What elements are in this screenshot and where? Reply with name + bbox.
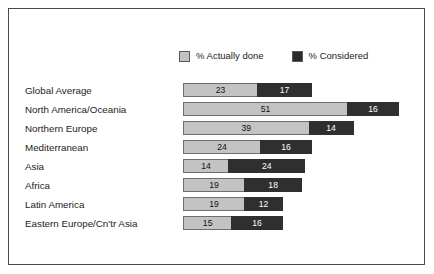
bar-value-label: 19	[209, 181, 219, 190]
bar-segment-consid: 12	[244, 197, 283, 211]
category-label: Eastern Europe/Cn'tr Asia	[25, 214, 137, 233]
category-label: Latin America	[25, 195, 84, 214]
plot-area: % Actually done% Considered Global Avera…	[9, 9, 426, 266]
bar-segment-consid: 18	[244, 178, 302, 192]
bar-row: Global Average2317	[9, 81, 426, 100]
bar-segment-consid: 24	[228, 159, 305, 173]
chart-frame: % Actually done% Considered Global Avera…	[8, 8, 425, 265]
bar-value-label: 16	[252, 219, 262, 228]
legend-swatch-consid-icon	[292, 51, 303, 62]
bar-value-label: 12	[259, 200, 269, 209]
bar-value-label: 14	[326, 124, 336, 133]
bar-row: Eastern Europe/Cn'tr Asia1516	[9, 214, 426, 233]
bar-value-label: 15	[203, 219, 213, 228]
bar-row: Mediterranean2416	[9, 138, 426, 157]
bar-row: Latin America1912	[9, 195, 426, 214]
bar-value-label: 19	[209, 200, 219, 209]
bar-value-label: 24	[262, 162, 272, 171]
category-label: Global Average	[25, 81, 92, 100]
category-label: Africa	[25, 176, 50, 195]
stacked-bar: 1424	[183, 159, 305, 173]
category-label: North America/Oceania	[25, 100, 126, 119]
bar-segment-done: 24	[183, 140, 260, 154]
bar-value-label: 16	[368, 105, 378, 114]
bar-value-label: 23	[216, 86, 226, 95]
bar-segment-done: 23	[183, 83, 257, 97]
bar-segment-consid: 16	[260, 140, 312, 154]
bar-segment-consid: 16	[231, 216, 283, 230]
stacked-bar: 5116	[183, 102, 399, 116]
bar-row: Africa1918	[9, 176, 426, 195]
bar-value-label: 17	[280, 86, 290, 95]
bar-segment-done: 39	[183, 121, 309, 135]
category-label: Mediterranean	[25, 138, 88, 157]
bar-value-label: 24	[217, 143, 227, 152]
legend-swatch-done-icon	[179, 51, 190, 62]
legend-label: % Actually done	[196, 51, 264, 61]
legend-entry[interactable]: % Considered	[292, 51, 369, 62]
stacked-bar: 3914	[183, 121, 354, 135]
stacked-bar: 1516	[183, 216, 283, 230]
legend-label: % Considered	[309, 51, 369, 61]
bar-value-label: 51	[261, 105, 271, 114]
stacked-bar: 1912	[183, 197, 283, 211]
bar-value-label: 39	[242, 124, 252, 133]
bar-segment-done: 51	[183, 102, 347, 116]
bar-value-label: 16	[281, 143, 291, 152]
stacked-bar: 1918	[183, 178, 302, 192]
bar-segment-consid: 14	[309, 121, 354, 135]
bar-row: North America/Oceania5116	[9, 100, 426, 119]
bar-segment-done: 14	[183, 159, 228, 173]
bar-value-label: 18	[268, 181, 278, 190]
legend-entry[interactable]: % Actually done	[179, 51, 264, 62]
bar-row: Asia1424	[9, 157, 426, 176]
bar-segment-done: 15	[183, 216, 231, 230]
bar-segment-done: 19	[183, 178, 244, 192]
bar-value-label: 14	[201, 162, 211, 171]
bar-rows: Global Average2317North America/Oceania5…	[9, 81, 426, 233]
chart-legend: % Actually done% Considered	[179, 49, 396, 63]
category-label: Asia	[25, 157, 44, 176]
bar-segment-consid: 17	[257, 83, 312, 97]
bar-segment-consid: 16	[347, 102, 399, 116]
category-label: Northern Europe	[25, 119, 97, 138]
bar-segment-done: 19	[183, 197, 244, 211]
stacked-bar: 2416	[183, 140, 312, 154]
stacked-bar: 2317	[183, 83, 312, 97]
chart-figure: % Actually done% Considered Global Avera…	[0, 0, 434, 274]
bar-row: Northern Europe3914	[9, 119, 426, 138]
